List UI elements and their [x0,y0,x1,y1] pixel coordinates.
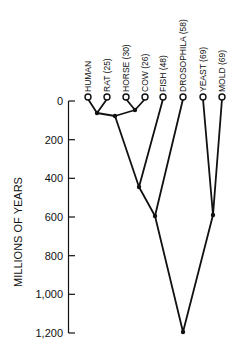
leaf-label-drosophila: DROSOPHILA (58) [178,19,188,92]
leaf-label-human: HUMAN [83,61,93,92]
leaf-human [85,94,91,100]
leaf-labels: HUMAN RAT (25) HORSE (30) COW (26) FISH … [83,19,227,92]
phylogenetic-tree-figure: MILLIONS OF YEARS 0 200 400 600 800 1,00… [0,0,239,349]
node-root [181,330,185,334]
leaf-label-cow: COW (26) [140,54,150,92]
tick-label: 800 [45,250,63,262]
leaf-nodes [85,94,225,100]
node-vertebrates [137,185,141,189]
leaf-label-yeast: YEAST (69) [198,47,208,92]
leaf-label-rat: RAT (25) [102,58,112,92]
leaf-label-mold: MOLD (69) [217,50,227,92]
leaf-fish [160,94,166,100]
node-human-rat [95,111,99,115]
leaf-horse [123,94,129,100]
node-animals [153,214,157,218]
tick-label: 200 [45,134,63,146]
tick-label: 400 [45,172,63,184]
leaf-rat [104,94,110,100]
leaf-yeast [200,94,206,100]
node-fungi [211,213,215,217]
leaf-label-fish: FISH (48) [158,55,168,92]
leaf-mold [219,94,225,100]
node-horse-cow [133,108,137,112]
y-axis [69,101,76,333]
leaf-label-horse: HORSE (30) [121,44,131,92]
tick-label: 600 [45,211,63,223]
leaf-drosophila [180,94,186,100]
y-axis-title: MILLIONS OF YEARS [12,177,24,287]
y-axis-tick-labels: 0 200 400 600 800 1,000 1,200 [35,95,63,339]
tick-label: 0 [57,95,63,107]
node-mammals [113,114,117,118]
tick-label: 1,000 [35,288,63,300]
leaf-cow [142,94,148,100]
tick-label: 1,200 [35,327,63,339]
internal-nodes [95,108,215,334]
